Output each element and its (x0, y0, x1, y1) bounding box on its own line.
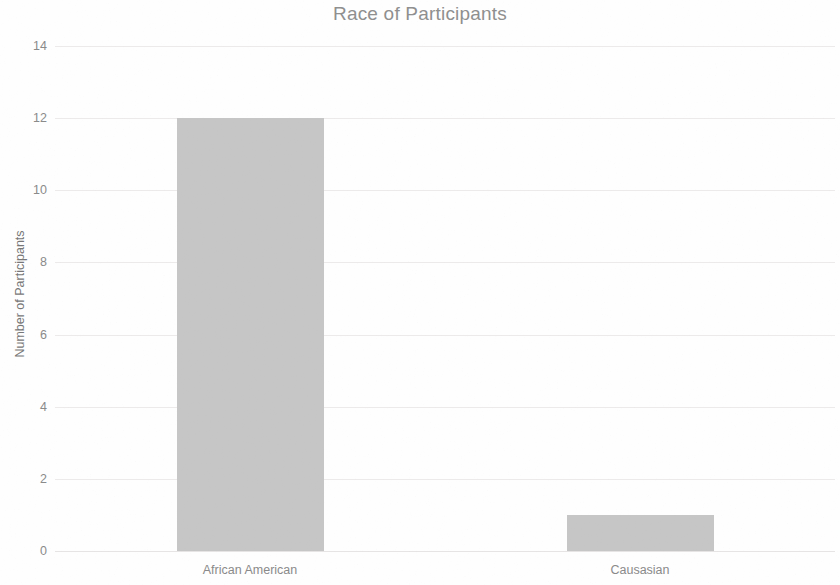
gridline (55, 262, 835, 263)
x-axis-tick-label: African American (203, 563, 297, 577)
gridline (55, 551, 835, 552)
y-axis-tick-label: 10 (7, 183, 47, 197)
plot-area (55, 46, 835, 551)
y-axis-tick-label: 0 (7, 544, 47, 558)
y-axis-tick-label: 12 (7, 111, 47, 125)
gridline (55, 407, 835, 408)
y-axis-tick-label: 6 (7, 328, 47, 342)
gridline (55, 118, 835, 119)
y-axis-tick-labels: 02468101214 (0, 46, 47, 551)
gridline (55, 479, 835, 480)
bar (177, 118, 324, 551)
y-axis-tick-label: 2 (7, 472, 47, 486)
bar (567, 515, 714, 551)
x-axis-tick-label: Causasian (610, 563, 669, 577)
gridline (55, 46, 835, 47)
y-axis-tick-label: 8 (7, 255, 47, 269)
gridline (55, 335, 835, 336)
bar-chart-figure: Race of Participants Number of Participa… (0, 0, 840, 585)
chart-title: Race of Participants (0, 3, 840, 25)
x-axis-tick-labels: African AmericanCausasian (55, 563, 835, 585)
y-axis-tick-label: 4 (7, 400, 47, 414)
gridline (55, 190, 835, 191)
y-axis-tick-label: 14 (7, 39, 47, 53)
